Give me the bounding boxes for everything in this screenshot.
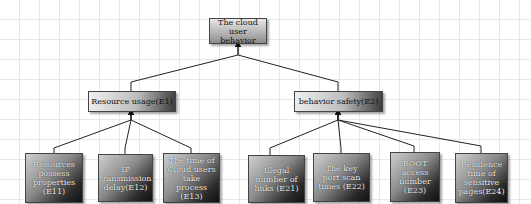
edge-e21-e2 [270, 112, 338, 155]
node-e2: behavior safety(E2) [294, 91, 383, 112]
node-e11-label: Resources possess properties (E11) [28, 160, 80, 196]
edge-e24-e2 [338, 112, 481, 153]
node-e2-label: behavior safety(E2) [299, 97, 379, 106]
edge-e11-e1 [54, 112, 131, 153]
node-e24-label: Residence time of sensitive pages(E24) [458, 160, 505, 196]
node-e21: Illegal number of links (E21) [248, 155, 305, 203]
node-e13: The time of Cloud users take process (E1… [163, 153, 220, 203]
edge-e2-root [238, 44, 338, 91]
node-e21-label: Illegal number of links (E21) [251, 166, 302, 193]
node-e1: Resource usage(E1) [88, 91, 176, 112]
edge-e1-root [131, 44, 238, 91]
node-e23-label: ROOT access number (E23) [393, 159, 437, 195]
edge-e13-e1 [131, 112, 191, 153]
node-root-label: The cloud user behavior [212, 18, 264, 44]
node-e22: The key port scan times (E22) [313, 153, 370, 202]
node-e13-label: The time of Cloud users take process (E1… [166, 156, 217, 201]
node-e12-label: IP transmission delay(E12) [100, 165, 152, 192]
node-e1-label: Resource usage(E1) [91, 97, 172, 106]
edge-e12-e1 [125, 112, 131, 154]
node-e22-label: The key port scan times (E22) [316, 164, 367, 191]
node-e24: Residence time of sensitive pages(E24) [455, 153, 508, 203]
node-e23: ROOT access number (E23) [390, 152, 440, 202]
node-root: The cloud user behavior [209, 18, 267, 44]
node-e12: IP transmission delay(E12) [98, 154, 153, 202]
node-e11: Resources possess properties (E11) [25, 153, 83, 203]
